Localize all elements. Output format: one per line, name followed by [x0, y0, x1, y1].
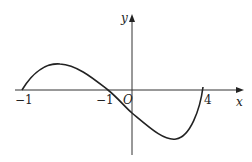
x-tick-label-neg1: −1	[96, 93, 114, 107]
y-axis-arrow-icon	[129, 14, 135, 22]
y-axis-label: y	[120, 11, 128, 25]
function-graph: −1 −1 O 4 x y	[0, 0, 252, 162]
origin-label: O	[123, 93, 133, 107]
x-tick-label-neg1-left: −1	[15, 93, 33, 107]
x-axis-label: x	[236, 95, 243, 109]
x-axis-arrow-icon	[236, 87, 244, 93]
x-tick-label-4: 4	[204, 93, 212, 107]
